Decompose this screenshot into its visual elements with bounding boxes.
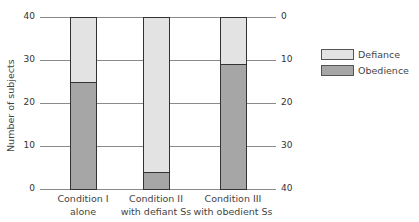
legend-swatch	[321, 49, 354, 60]
y-tick-right: 20	[281, 97, 301, 107]
legend-swatch	[321, 65, 354, 76]
obedience-segment	[144, 172, 169, 189]
y-tick-left: 10	[15, 140, 35, 150]
bar-2	[143, 17, 170, 190]
y-axis-label: Number of subjects	[5, 59, 16, 152]
legend-item-defiance: Defiance	[321, 49, 400, 60]
defiance-segment	[144, 18, 169, 173]
y-tick-right: 40	[281, 183, 301, 193]
y-tick-left: 20	[15, 97, 35, 107]
y-tick-left: 0	[15, 183, 35, 193]
obedience-segment	[221, 64, 246, 189]
legend-label: Defiance	[358, 49, 400, 60]
y-tick-right: 0	[281, 11, 301, 21]
defiance-segment	[221, 18, 246, 65]
y-tick-left: 40	[15, 11, 35, 21]
category-label: Condition IIIwith obedient Ss	[188, 192, 278, 218]
y-tick-left: 30	[15, 54, 35, 64]
y-tick-right: 10	[281, 54, 301, 64]
defiance-segment	[71, 18, 96, 83]
y-tick-right: 30	[281, 140, 301, 150]
category-label-line: Condition III	[188, 192, 278, 205]
category-label-line: with obedient Ss	[188, 205, 278, 218]
legend-label: Obedience	[358, 65, 409, 76]
bar-3	[220, 17, 247, 190]
bar-1	[70, 17, 97, 190]
obedience-segment	[71, 82, 96, 190]
legend-item-obedience: Obedience	[321, 65, 409, 76]
